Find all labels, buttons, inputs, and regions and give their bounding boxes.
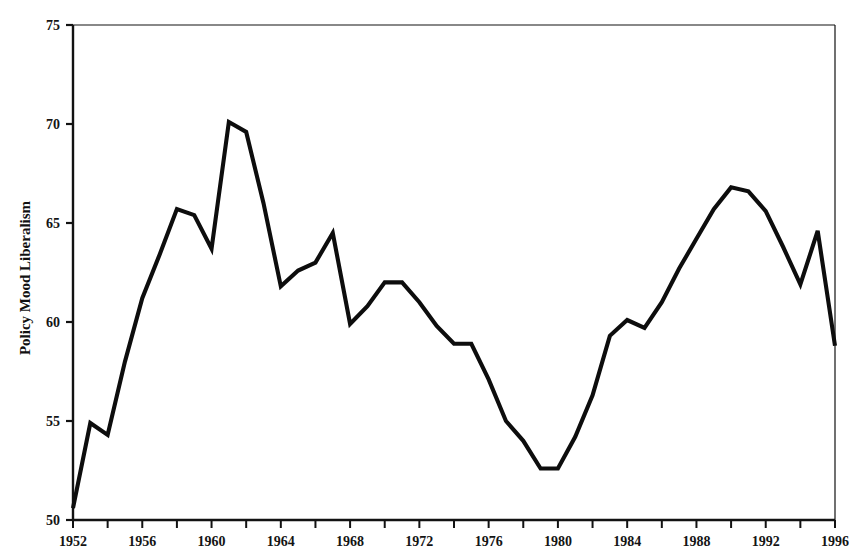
- y-tick-label: 50: [46, 513, 60, 528]
- x-tick-label: 1976: [475, 534, 503, 549]
- x-tick-label: 1992: [752, 534, 780, 549]
- line-chart: 505560657075 195219561960196419681972197…: [0, 0, 849, 556]
- y-tick-label: 60: [46, 315, 60, 330]
- x-tick-label: 1988: [682, 534, 710, 549]
- x-tick-label: 1968: [336, 534, 364, 549]
- y-tick-label: 70: [46, 117, 60, 132]
- x-tick-label: 1980: [544, 534, 572, 549]
- y-tick-label: 55: [46, 414, 60, 429]
- y-axis-title: Policy Mood Liberalism: [17, 200, 33, 355]
- chart-background: [0, 0, 849, 556]
- x-tick-label: 1996: [821, 534, 849, 549]
- x-tick-label: 1984: [613, 534, 641, 549]
- x-tick-label: 1960: [198, 534, 226, 549]
- chart-container: 505560657075 195219561960196419681972197…: [0, 0, 849, 556]
- x-tick-label: 1964: [267, 534, 295, 549]
- y-tick-label: 65: [46, 216, 60, 231]
- x-tick-label: 1972: [405, 534, 433, 549]
- x-tick-label: 1952: [59, 534, 87, 549]
- y-tick-label: 75: [46, 18, 60, 33]
- x-tick-label: 1956: [128, 534, 156, 549]
